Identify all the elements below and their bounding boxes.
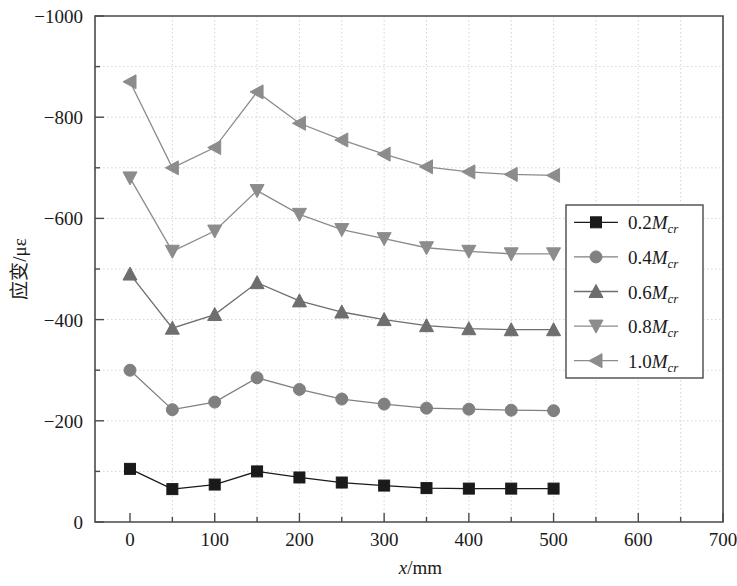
data-point-marker (251, 372, 263, 384)
x-tick-label: 0 (125, 529, 135, 550)
y-axis-title: 应变/με (8, 238, 30, 299)
data-point-marker (547, 168, 560, 182)
x-tick-label: 400 (455, 529, 484, 550)
data-point-marker (294, 472, 305, 483)
x-tick-label: 700 (709, 529, 737, 550)
data-point-marker (548, 405, 560, 417)
data-point-marker (378, 398, 390, 410)
data-point-marker (165, 321, 179, 334)
data-point-marker (167, 484, 178, 495)
data-point-marker (506, 483, 517, 494)
data-point-marker (165, 245, 179, 258)
series-1.0Mcr (123, 75, 560, 183)
data-point-marker (209, 396, 221, 408)
data-point-marker (123, 172, 137, 185)
data-point-marker (208, 225, 222, 238)
legend-marker (590, 251, 602, 263)
x-tick-label: 600 (624, 529, 653, 550)
data-point-marker (124, 364, 136, 376)
y-tick-label: −400 (44, 310, 83, 331)
y-tick-label: −200 (44, 411, 83, 432)
data-point-marker (463, 483, 474, 494)
y-tick-label: −600 (44, 208, 83, 229)
data-point-marker (421, 483, 432, 494)
data-point-marker (377, 147, 390, 161)
strain-vs-position-chart: 0100200300400500600700−1000−800−600−400−… (0, 0, 737, 586)
legend: 0.2Mcr0.4Mcr0.6Mcr0.8Mcr1.0Mcr (566, 205, 703, 378)
data-point-marker (379, 480, 390, 491)
data-point-marker (292, 294, 306, 307)
data-point-marker (462, 165, 475, 179)
data-point-marker (123, 267, 137, 280)
data-point-marker (209, 479, 220, 490)
data-point-marker (505, 404, 517, 416)
svg-text:应变/με: 应变/με (8, 238, 30, 299)
data-point-marker (123, 75, 136, 89)
y-tick-label: −800 (44, 107, 83, 128)
x-tick-label: 200 (285, 529, 314, 550)
chart-canvas: 0100200300400500600700−1000−800−600−400−… (0, 0, 737, 586)
x-axis-title: x/mm (398, 557, 442, 578)
x-tick-label: 100 (200, 529, 229, 550)
data-point-marker (504, 167, 517, 181)
data-point-marker (166, 404, 178, 416)
data-point-marker (335, 305, 349, 318)
data-point-marker (292, 116, 305, 130)
data-point-marker (336, 477, 347, 488)
data-point-marker (336, 393, 348, 405)
x-tick-label: 300 (370, 529, 399, 550)
data-point-marker (165, 161, 178, 175)
y-tick-label: −1000 (34, 6, 83, 27)
data-point-marker (463, 403, 475, 415)
data-point-marker (252, 466, 263, 477)
data-point-marker (293, 383, 305, 395)
data-point-marker (335, 133, 348, 147)
data-point-marker (250, 85, 263, 99)
data-point-marker (208, 141, 221, 155)
data-point-marker (208, 308, 222, 321)
data-point-marker (548, 483, 559, 494)
y-tick-label: 0 (74, 512, 84, 533)
x-tick-label: 500 (539, 529, 568, 550)
data-point-marker (420, 160, 433, 174)
legend-marker (591, 217, 602, 228)
data-point-marker (125, 463, 136, 474)
data-point-marker (421, 402, 433, 414)
data-point-marker (250, 276, 264, 289)
data-point-marker (292, 208, 306, 221)
